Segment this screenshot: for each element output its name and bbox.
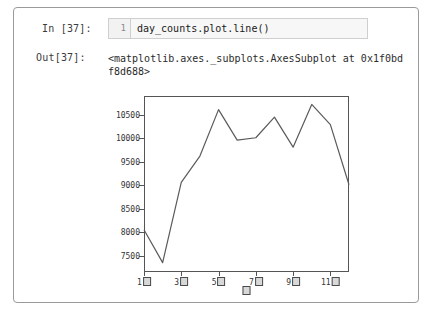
missing-glyph-icon bbox=[143, 277, 151, 286]
missing-glyph-icon bbox=[243, 286, 251, 295]
missing-glyph-icon bbox=[292, 277, 300, 286]
x-tick-mark bbox=[256, 272, 257, 276]
x-tick-label: 3 bbox=[174, 277, 188, 287]
x-tick-mark bbox=[181, 272, 182, 276]
x-tick-mark bbox=[293, 272, 294, 276]
code-input[interactable]: day_counts.plot.line() bbox=[137, 19, 269, 38]
line-number-gutter: 1 bbox=[109, 19, 131, 38]
x-tick-label: 7 bbox=[249, 277, 263, 287]
missing-glyph-icon bbox=[217, 277, 225, 286]
missing-glyph-icon bbox=[180, 277, 188, 286]
notebook-cell: In [37]: 1 day_counts.plot.line() Out[37… bbox=[13, 7, 419, 303]
x-axis-label bbox=[242, 286, 251, 296]
code-editor[interactable]: 1 day_counts.plot.line() bbox=[108, 18, 368, 39]
x-tick-label: 11 bbox=[321, 277, 340, 287]
line-path bbox=[144, 104, 349, 262]
y-tick-label: 10000 bbox=[116, 134, 140, 143]
x-tick-label: 1 bbox=[137, 277, 151, 287]
output-repr-text: <matplotlib.axes._subplots.AxesSubplot a… bbox=[108, 52, 408, 78]
y-tick-label: 9000 bbox=[121, 181, 140, 190]
output-prompt-label: Out[37]: bbox=[36, 52, 86, 63]
x-tick-mark bbox=[144, 272, 145, 276]
x-tick-label: 9 bbox=[286, 277, 300, 287]
x-tick-mark bbox=[330, 272, 331, 276]
y-tick-label: 9500 bbox=[121, 157, 140, 166]
y-tick-label: 8000 bbox=[121, 228, 140, 237]
y-tick-label: 7500 bbox=[121, 251, 140, 260]
input-prompt-label: In [37]: bbox=[42, 23, 92, 34]
input-cell-row: In [37]: 1 day_counts.plot.line() bbox=[14, 18, 418, 42]
x-tick-label: 5 bbox=[212, 277, 226, 287]
matplotlib-figure: 750080008500900095001000010500 1357911 bbox=[74, 86, 374, 298]
missing-glyph-icon bbox=[255, 277, 263, 286]
missing-glyph-icon bbox=[332, 277, 340, 286]
x-tick-mark bbox=[219, 272, 220, 276]
y-tick-label: 8500 bbox=[121, 204, 140, 213]
y-tick-label: 10500 bbox=[116, 110, 140, 119]
